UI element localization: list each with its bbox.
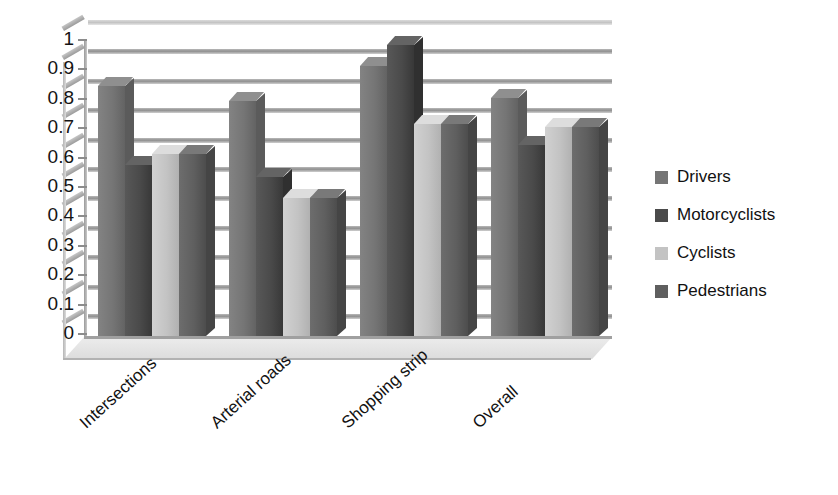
chart-legend: DriversMotorcyclistsCyclistsPedestrians bbox=[655, 158, 835, 310]
bars-layer bbox=[0, 0, 660, 360]
bar bbox=[229, 101, 256, 336]
y-axis-tick bbox=[78, 215, 87, 217]
bar bbox=[256, 177, 283, 336]
y-axis-tick bbox=[78, 98, 87, 100]
legend-item[interactable]: Motorcyclists bbox=[655, 196, 835, 234]
y-axis-label: 0.3 bbox=[16, 235, 74, 254]
y-axis-tick bbox=[78, 333, 87, 335]
bar bbox=[152, 154, 179, 336]
bar-face bbox=[310, 198, 337, 336]
bar-face bbox=[414, 124, 441, 336]
legend-item[interactable]: Pedestrians bbox=[655, 272, 835, 310]
y-axis-label: 0 bbox=[16, 323, 74, 342]
y-axis-label: 0.8 bbox=[16, 88, 74, 107]
bar bbox=[387, 45, 414, 336]
bar-group bbox=[491, 40, 599, 336]
bar bbox=[545, 127, 572, 336]
bar-face bbox=[283, 198, 310, 336]
y-axis-tick bbox=[78, 245, 87, 247]
legend-swatch-icon bbox=[655, 247, 668, 260]
bar-face bbox=[441, 124, 468, 336]
bar bbox=[414, 124, 441, 336]
y-axis-label: 0.5 bbox=[16, 176, 74, 195]
bar bbox=[283, 198, 310, 336]
bar-group bbox=[229, 40, 337, 336]
bar-group bbox=[360, 40, 468, 336]
bar-face bbox=[545, 127, 572, 336]
bar bbox=[572, 127, 599, 336]
bar-side bbox=[599, 119, 608, 336]
plot-floor bbox=[84, 336, 612, 339]
legend-label: Pedestrians bbox=[677, 281, 767, 301]
bar-side bbox=[337, 190, 346, 336]
y-axis-tick bbox=[78, 304, 87, 306]
y-axis-tick bbox=[78, 274, 87, 276]
bar-face bbox=[125, 165, 152, 336]
legend-swatch-icon bbox=[655, 209, 668, 222]
y-axis-label: 1 bbox=[16, 29, 74, 48]
bar-face bbox=[152, 154, 179, 336]
y-axis-line bbox=[84, 40, 87, 336]
legend-item[interactable]: Cyclists bbox=[655, 234, 835, 272]
bar-group bbox=[98, 40, 206, 336]
plot-area: 10.90.80.70.60.50.40.30.20.10 bbox=[0, 0, 660, 360]
bar bbox=[518, 145, 545, 336]
bar bbox=[491, 98, 518, 336]
x-axis-label: Arterial roads bbox=[207, 350, 296, 433]
y-axis-label: 0.6 bbox=[16, 147, 74, 166]
legend-label: Motorcyclists bbox=[677, 205, 775, 225]
bar-face bbox=[179, 154, 206, 336]
bar-face bbox=[98, 86, 125, 336]
y-axis-tick bbox=[78, 157, 87, 159]
bar-face bbox=[518, 145, 545, 336]
legend-label: Drivers bbox=[677, 167, 731, 187]
x-axis-label: Overall bbox=[469, 382, 522, 433]
bar-side bbox=[468, 116, 477, 336]
bar-face bbox=[229, 101, 256, 336]
bar bbox=[125, 165, 152, 336]
x-axis-label: Intersections bbox=[76, 354, 161, 433]
bar bbox=[310, 198, 337, 336]
y-axis-tick bbox=[78, 127, 87, 129]
y-axis-tick bbox=[78, 68, 87, 70]
y-axis-tick bbox=[78, 186, 87, 188]
y-axis-label: 0.9 bbox=[16, 58, 74, 77]
bar-side bbox=[206, 146, 215, 336]
y-axis-label: 0.2 bbox=[16, 264, 74, 283]
legend-label: Cyclists bbox=[677, 243, 736, 263]
legend-swatch-icon bbox=[655, 171, 668, 184]
bar bbox=[360, 66, 387, 336]
bar bbox=[179, 154, 206, 336]
bar-face bbox=[572, 127, 599, 336]
bar bbox=[441, 124, 468, 336]
bar-face bbox=[491, 98, 518, 336]
legend-swatch-icon bbox=[655, 285, 668, 298]
y-axis-label: 0.7 bbox=[16, 117, 74, 136]
bar bbox=[98, 86, 125, 336]
bar-face bbox=[387, 45, 414, 336]
bar-face bbox=[256, 177, 283, 336]
y-axis-label: 0.1 bbox=[16, 294, 74, 313]
y-axis-label: 0.4 bbox=[16, 205, 74, 224]
chart-root: 10.90.80.70.60.50.40.30.20.10 Intersecti… bbox=[0, 0, 838, 495]
y-axis-tick bbox=[78, 39, 87, 41]
bar-face bbox=[360, 66, 387, 336]
legend-item[interactable]: Drivers bbox=[655, 158, 835, 196]
